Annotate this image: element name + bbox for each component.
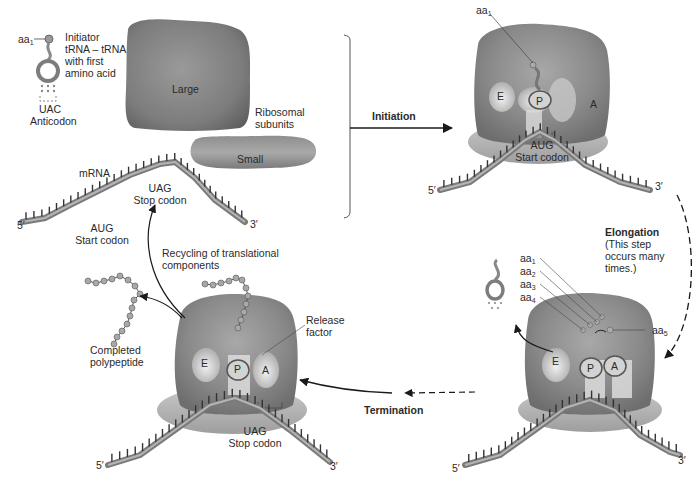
amino-acid-bead — [93, 280, 99, 286]
elong-5prime: 5′ — [452, 462, 460, 474]
anticodon-label: UAC Anticodon — [30, 103, 70, 127]
init-site-a: A — [590, 98, 597, 110]
amino-acid-bead — [114, 334, 120, 340]
large-subunit-shape — [126, 19, 251, 131]
init-3prime: 3′ — [655, 180, 663, 192]
amino-acid-bead — [243, 301, 249, 307]
recycling-label: Recycling of translational components — [162, 247, 279, 271]
elong-site-p: P — [587, 362, 594, 374]
init-start-codon-label: AUG Start codon — [512, 139, 572, 163]
ribosomal-subunits-label: Ribosomal subunits — [255, 106, 305, 130]
free-stop-codon-label: UAG Stop codon — [130, 182, 190, 206]
amino-acid-bead — [124, 321, 130, 327]
free-mrna-3prime: 3′ — [250, 218, 258, 230]
term-site-e: E — [201, 357, 208, 369]
amino-acid-bead — [226, 278, 232, 284]
amino-acid-bead — [243, 285, 249, 291]
amino-acid-bead — [233, 275, 239, 281]
small-subunit-label: Small — [237, 153, 263, 165]
init-site-e: E — [497, 90, 504, 102]
amino-acid-bead — [218, 280, 224, 286]
amino-acid-bead — [129, 305, 135, 311]
amino-acid-bead — [239, 277, 245, 283]
elong-site-a: A — [611, 360, 618, 372]
term-5prime: 5′ — [96, 459, 104, 471]
term-site-p: P — [234, 363, 241, 375]
trna-aa1-label: aa1 — [18, 33, 34, 49]
free-start-codon-label: AUG Start codon — [72, 222, 132, 246]
termination-arrow — [300, 380, 392, 393]
amino-acid-bead — [125, 277, 131, 283]
term-site-a: A — [262, 364, 269, 376]
amino-acid-bead — [238, 317, 244, 323]
amino-acid-bead — [127, 313, 133, 319]
initiation-label: Initiation — [372, 110, 416, 122]
amino-acid-bead — [202, 281, 208, 287]
large-subunit-label: Large — [172, 83, 199, 95]
amino-acid-bead — [101, 278, 107, 284]
mrna-label: mRNA — [79, 167, 110, 179]
amino-acid-bead — [235, 325, 241, 331]
amino-acid-bead — [117, 273, 123, 279]
amino-acid-bead — [85, 278, 91, 284]
completed-polypeptide-label: Completed polypeptide — [90, 344, 144, 368]
amino-acid-bead — [119, 328, 125, 334]
elong-aa4-label: aa4 — [520, 291, 536, 307]
term-3prime: 3′ — [330, 460, 338, 472]
termination-label: Termination — [364, 404, 423, 416]
term-stop-codon-label: UAG Stop codon — [220, 425, 290, 449]
termination-dashed-arrow — [405, 392, 475, 393]
amino-acid-bead — [109, 276, 115, 282]
free-mrna-5prime: 5′ — [17, 219, 25, 231]
elongation-label: Elongation (This step occurs many times.… — [605, 226, 665, 274]
initiator-trna-label: Initiator tRNA – tRNA with first amino a… — [65, 31, 126, 79]
init-5prime: 5′ — [428, 184, 436, 196]
initiator-trna-icon — [34, 35, 58, 101]
elong-3prime: 3′ — [678, 454, 686, 466]
release-factor-label: Release factor — [306, 314, 345, 338]
elong-aa5-label: aa5 — [652, 324, 668, 340]
elong-site-e: E — [552, 355, 559, 367]
init-aa1-label: aa1 — [476, 4, 492, 20]
bracket — [344, 35, 350, 218]
amino-acid-bead — [132, 283, 138, 289]
amino-acid-bead — [210, 282, 216, 288]
amino-acid-bead — [245, 293, 251, 299]
amino-acid-bead — [131, 297, 137, 303]
init-site-p: P — [536, 95, 543, 107]
amino-acid-bead — [241, 309, 247, 315]
elongation-arrow — [665, 195, 691, 358]
